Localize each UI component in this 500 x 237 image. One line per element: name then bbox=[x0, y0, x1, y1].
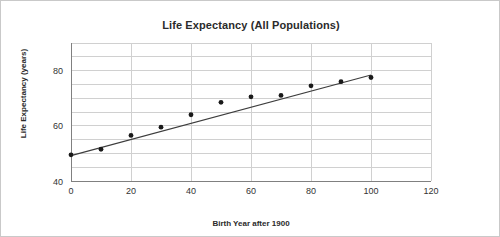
data-point bbox=[129, 133, 134, 138]
y-tick-label: 80 bbox=[53, 66, 63, 76]
data-point bbox=[279, 93, 284, 98]
data-points bbox=[69, 75, 374, 157]
x-tick-label: 100 bbox=[363, 186, 378, 196]
data-point bbox=[69, 152, 74, 157]
data-point bbox=[99, 147, 104, 152]
x-tick-labels: 020406080100120 bbox=[68, 186, 438, 196]
data-point bbox=[339, 79, 344, 84]
data-point bbox=[159, 125, 164, 130]
x-tick-label: 80 bbox=[306, 186, 316, 196]
grid-lines bbox=[71, 43, 431, 181]
chart-container: Life Expectancy (All Populations) Life E… bbox=[0, 0, 500, 237]
data-point bbox=[369, 75, 374, 80]
data-point bbox=[189, 112, 194, 117]
y-tick-label: 40 bbox=[53, 177, 63, 187]
x-tick-label: 120 bbox=[423, 186, 438, 196]
x-tick-label: 40 bbox=[186, 186, 196, 196]
plot-area: 020406080100120 406080 bbox=[1, 1, 500, 237]
data-point bbox=[219, 100, 224, 105]
trend-line bbox=[71, 75, 371, 156]
x-tick-label: 60 bbox=[246, 186, 256, 196]
x-tick-label: 0 bbox=[68, 186, 73, 196]
x-tick-label: 20 bbox=[126, 186, 136, 196]
data-point bbox=[309, 83, 314, 88]
y-tick-label: 60 bbox=[53, 121, 63, 131]
y-tick-labels: 406080 bbox=[53, 66, 63, 186]
data-point bbox=[249, 94, 254, 99]
